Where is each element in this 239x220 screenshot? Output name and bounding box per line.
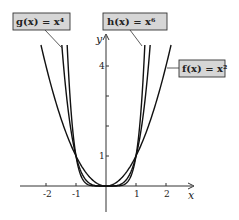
label-f: f(x) = x² <box>179 60 227 77</box>
h-leader-line <box>130 30 142 46</box>
label-g-text: g(x) = x⁴ <box>16 16 65 27</box>
g-leader-line <box>45 30 62 48</box>
axes: -2 -1 1 2 1 4 x y <box>20 33 195 212</box>
graph-canvas: -2 -1 1 2 1 4 x y g(x) = x⁴ h(x) = x⁶ f(… <box>0 0 239 220</box>
x-axis-label: x <box>188 189 195 202</box>
y-axis-label: y <box>95 33 103 46</box>
x-tick-label: 2 <box>164 189 170 199</box>
label-f-text: f(x) = x² <box>182 63 227 74</box>
label-g: g(x) = x⁴ <box>13 13 70 30</box>
x-tick-label: -2 <box>43 189 52 199</box>
y-tick-label: 4 <box>99 61 105 71</box>
x-tick-label: 1 <box>134 189 140 199</box>
label-h: h(x) = x⁶ <box>103 13 167 30</box>
x-tick-label: -1 <box>72 189 81 199</box>
y-tick-label: 1 <box>99 151 105 161</box>
label-h-text: h(x) = x⁶ <box>107 16 156 27</box>
